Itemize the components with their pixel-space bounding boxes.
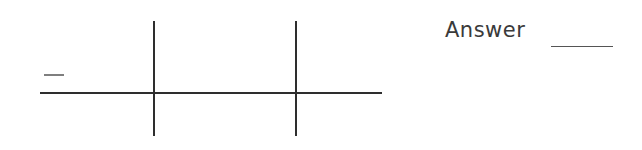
grid-figure bbox=[0, 0, 642, 150]
answer-blank[interactable] bbox=[551, 46, 613, 47]
answer-label: Answer bbox=[445, 18, 525, 42]
